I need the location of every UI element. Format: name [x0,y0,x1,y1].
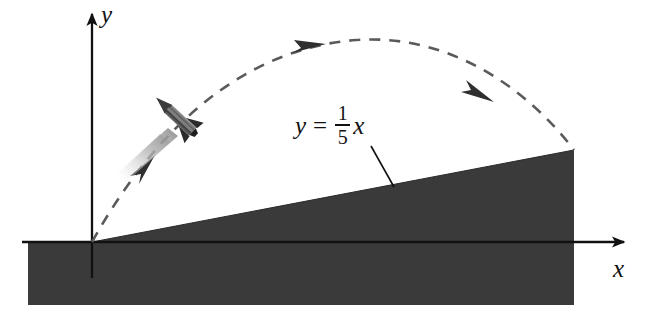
trajectory-arrow-descending [461,80,494,102]
trajectory-arrow-apex [292,40,326,53]
equation-leader-line [371,146,394,187]
equation-lhs: y [295,113,306,138]
equation-variable: x [353,113,364,138]
fraction-denominator: 5 [336,126,350,147]
equation-relation: = [313,113,327,138]
y-axis-label: y [101,2,112,27]
equation-label: y = 1 5 x [295,103,364,147]
figure-canvas: y x y = 1 5 x [0,0,658,319]
fraction-numerator: 1 [336,103,350,124]
x-axis-label: x [613,256,624,281]
figure-graphics [0,0,658,319]
hill-region [28,150,574,305]
equation-fraction: 1 5 [335,103,350,147]
rocket-icon [114,87,206,186]
